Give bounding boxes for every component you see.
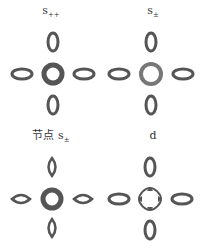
left-pocket bbox=[109, 194, 129, 204]
left-pocket bbox=[109, 69, 129, 79]
fermi-surface-diagram bbox=[102, 125, 204, 251]
panel-nodal-s-plus-minus: 节点 s± bbox=[0, 125, 102, 251]
bottom-pocket bbox=[145, 221, 155, 239]
panel-s-plus-plus: s++ bbox=[0, 0, 102, 125]
bottom-pocket bbox=[49, 219, 56, 237]
left-pocket bbox=[12, 195, 30, 203]
right-pocket bbox=[74, 195, 92, 203]
right-pocket bbox=[172, 194, 192, 204]
fermi-surface-diagram bbox=[102, 0, 204, 125]
panel-s-plus-minus: s± bbox=[102, 0, 204, 125]
panel-d-wave: d bbox=[102, 125, 204, 251]
center-pocket bbox=[43, 190, 61, 208]
top-pocket bbox=[49, 158, 56, 176]
center-pocket bbox=[141, 64, 161, 84]
bottom-pocket bbox=[146, 96, 156, 114]
left-pocket bbox=[12, 69, 32, 79]
center-pocket bbox=[44, 65, 62, 83]
bottom-pocket bbox=[48, 96, 58, 114]
fermi-surface-diagram bbox=[0, 0, 102, 125]
right-pocket bbox=[74, 69, 94, 79]
top-pocket bbox=[145, 158, 155, 176]
top-pocket bbox=[146, 33, 156, 51]
gap-lobes bbox=[138, 187, 162, 211]
right-pocket bbox=[173, 69, 193, 79]
top-pocket bbox=[48, 33, 58, 51]
fermi-surface-diagram bbox=[0, 125, 102, 251]
center-pocket bbox=[139, 188, 161, 210]
